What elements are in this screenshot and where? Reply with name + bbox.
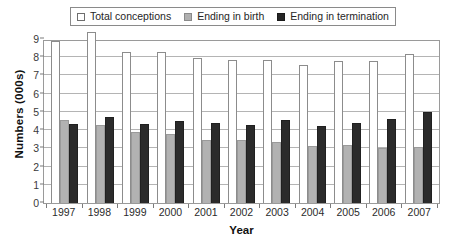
- y-tick-label: 2: [33, 161, 39, 173]
- legend-item-ending-in-birth: Ending in birth: [184, 11, 264, 22]
- x-tick-label: 2002: [224, 206, 260, 218]
- bar-ending-in-termination: [175, 121, 184, 203]
- bar-ending-in-birth: [237, 140, 246, 203]
- x-tick-label: 1998: [82, 206, 118, 218]
- bar-ending-in-termination: [140, 124, 149, 203]
- x-tick-label: 1997: [46, 206, 82, 218]
- bar-ending-in-termination: [352, 123, 361, 203]
- bar-total-conceptions: [405, 54, 414, 203]
- legend-swatch-black-icon: [277, 13, 285, 21]
- legend-item-ending-in-termination: Ending in termination: [277, 11, 389, 22]
- bar-total-conceptions: [122, 52, 131, 203]
- x-tick-label: 2005: [330, 206, 366, 218]
- y-tick-label: 1: [33, 179, 39, 191]
- bar-group: [295, 41, 330, 203]
- y-tick-label: 8: [33, 51, 39, 63]
- bar-ending-in-birth: [414, 147, 423, 203]
- bar-ending-in-birth: [378, 148, 387, 203]
- x-tick-label: 2001: [188, 206, 224, 218]
- bar-group: [365, 41, 400, 203]
- bar-total-conceptions: [228, 60, 237, 203]
- bar-ending-in-termination: [246, 125, 255, 203]
- bar-group: [47, 41, 82, 203]
- bar-ending-in-termination: [387, 119, 396, 203]
- bar-total-conceptions: [334, 61, 343, 203]
- bar-group: [153, 41, 188, 203]
- x-tick-label: 1999: [117, 206, 153, 218]
- bar-group: [401, 41, 436, 203]
- legend-label-ending-in-birth: Ending in birth: [197, 11, 264, 22]
- bar-group: [118, 41, 153, 203]
- legend-label-total-conceptions: Total conceptions: [90, 11, 171, 22]
- y-tick-label: 5: [33, 106, 39, 118]
- bar-ending-in-birth: [272, 142, 281, 203]
- bar-group: [259, 41, 294, 203]
- x-tick-label: 2007: [401, 206, 437, 218]
- bar-ending-in-birth: [202, 140, 211, 203]
- legend-swatch-white-icon: [77, 13, 85, 21]
- bar-group: [330, 41, 365, 203]
- bar-ending-in-birth: [131, 132, 140, 203]
- x-tick-label: 2004: [295, 206, 331, 218]
- bar-ending-in-termination: [423, 112, 432, 203]
- bar-groups: [44, 41, 439, 203]
- legend-swatch-gray-icon: [184, 13, 192, 21]
- bar-ending-in-birth: [166, 134, 175, 203]
- bar-ending-in-termination: [105, 117, 114, 203]
- bar-chart: Total conceptions Ending in birth Ending…: [0, 0, 449, 248]
- x-tick-label: 2003: [259, 206, 295, 218]
- y-tick-mark: [40, 38, 44, 39]
- bar-total-conceptions: [193, 58, 202, 203]
- y-tick-label: 7: [33, 69, 39, 81]
- x-axis-labels: 1997199819992000200120022003200420052006…: [43, 206, 440, 218]
- plot-area: 0123456789: [43, 40, 440, 204]
- x-tick-label: 2006: [366, 206, 402, 218]
- chart-legend: Total conceptions Ending in birth Ending…: [70, 7, 396, 26]
- bar-total-conceptions: [299, 65, 308, 203]
- bar-ending-in-termination: [69, 124, 78, 203]
- legend-item-total-conceptions: Total conceptions: [77, 11, 171, 22]
- bar-ending-in-termination: [281, 120, 290, 203]
- x-axis-title: Year: [43, 224, 440, 236]
- bar-ending-in-birth: [308, 146, 317, 203]
- bar-ending-in-birth: [96, 125, 105, 203]
- bar-total-conceptions: [263, 60, 272, 203]
- bar-group: [188, 41, 223, 203]
- y-tick-label: 3: [33, 142, 39, 154]
- bar-total-conceptions: [369, 61, 378, 203]
- bar-total-conceptions: [87, 32, 96, 203]
- bar-total-conceptions: [157, 52, 166, 203]
- x-tick-label: 2000: [153, 206, 189, 218]
- y-tick-label: 4: [33, 124, 39, 136]
- bar-ending-in-termination: [317, 126, 326, 203]
- y-tick-label: 6: [33, 88, 39, 100]
- bar-group: [224, 41, 259, 203]
- bar-ending-in-birth: [343, 145, 352, 203]
- bar-ending-in-birth: [60, 120, 69, 203]
- y-axis-title: Numbers (000s): [13, 59, 25, 169]
- y-tick-label: 0: [33, 197, 39, 209]
- bar-ending-in-termination: [211, 123, 220, 203]
- bar-total-conceptions: [51, 41, 60, 203]
- y-tick-label: 9: [33, 33, 39, 45]
- bar-group: [82, 41, 117, 203]
- legend-label-ending-in-termination: Ending in termination: [290, 11, 389, 22]
